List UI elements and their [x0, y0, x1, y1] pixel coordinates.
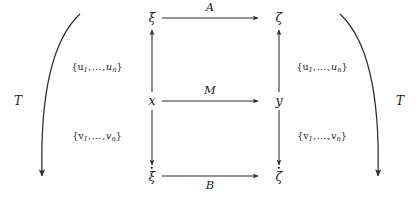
node-top-right: ζ: [276, 12, 283, 25]
node-bottom-right-glyph: ζ: [276, 171, 283, 184]
arrow-label-B: B: [206, 180, 214, 192]
arrow-label-A: A: [206, 2, 214, 14]
set-label-u-left: {u1,…,un}: [71, 62, 122, 74]
dot-accent-icon: [278, 167, 280, 169]
set-v-close: }: [116, 130, 122, 141]
outer-label-T-left: T: [14, 95, 22, 107]
node-top-left: ξ: [149, 12, 156, 25]
set-label-v-right: {v1,…,vn}: [297, 131, 347, 143]
set-v-ellipsis: ,…,: [88, 130, 106, 141]
node-bottom-left-base: ξ: [149, 169, 156, 184]
set-label-u-right: {u1,…,un}: [296, 62, 347, 74]
set-v-open: {v: [297, 130, 308, 141]
node-mid-right: y: [275, 95, 282, 108]
arrow-right-curve-line: [340, 14, 378, 176]
outer-label-T-right: T: [396, 95, 404, 107]
node-bottom-left: ξ: [149, 171, 156, 184]
node-bottom-left-glyph: ξ: [149, 171, 156, 184]
commutative-diagram: ξ ζ x y ξ ζ A M B {u1,…,un} {u1,…,un} {v…: [0, 0, 418, 198]
set-u-ellipsis: ,…,: [313, 61, 331, 72]
set-v-open: {v: [72, 130, 83, 141]
set-u-open: {u: [296, 61, 308, 72]
node-mid-left: x: [148, 95, 155, 108]
set-u-close: }: [117, 61, 123, 72]
node-bottom-right: ζ: [276, 171, 283, 184]
arrow-left-curve-line: [42, 14, 80, 176]
set-v-ellipsis: ,…,: [313, 130, 331, 141]
set-v-close: }: [341, 130, 347, 141]
dot-accent-icon: [151, 167, 153, 169]
diagram-canvas: [0, 0, 418, 198]
node-bottom-right-base: ζ: [276, 169, 283, 184]
set-label-v-left: {v1,…,vn}: [72, 131, 122, 143]
arrow-label-M: M: [204, 85, 216, 97]
set-u-open: {u: [71, 61, 83, 72]
set-u-ellipsis: ,…,: [88, 61, 106, 72]
set-u-close: }: [342, 61, 348, 72]
